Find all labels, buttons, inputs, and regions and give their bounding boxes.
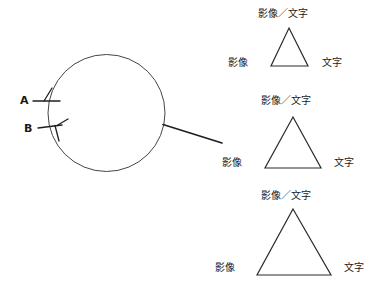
triangle-medium-left-label: 影像 <box>222 158 242 168</box>
triangle-medium-shape <box>265 117 321 168</box>
circle-label-b: B <box>24 123 32 134</box>
pointer-line-right <box>163 125 222 144</box>
triangle-small-shape <box>271 28 308 66</box>
triangle-large-apex-label: 影像／文字 <box>261 191 311 201</box>
triangle-small-right-label: 文字 <box>322 58 342 68</box>
diagram-canvas: A B 影像／文字 影像 文字 影像／文字 影像 文字 影像／文字 影像 文字 <box>0 0 385 296</box>
leader-b-stub-down <box>55 126 59 142</box>
main-circle <box>48 55 165 172</box>
triangle-large-shape <box>257 209 331 275</box>
circle-label-a: A <box>20 95 29 106</box>
triangle-small-apex-label: 影像／文字 <box>258 9 308 19</box>
triangle-large-left-label: 影像 <box>215 263 235 273</box>
triangle-small-left-label: 影像 <box>228 58 248 68</box>
leader-b-tick-up <box>57 119 68 126</box>
triangle-large-right-label: 文字 <box>344 263 364 273</box>
diagram-vector-layer <box>0 0 385 296</box>
triangle-medium-apex-label: 影像／文字 <box>261 96 311 106</box>
triangle-medium-right-label: 文字 <box>334 158 354 168</box>
